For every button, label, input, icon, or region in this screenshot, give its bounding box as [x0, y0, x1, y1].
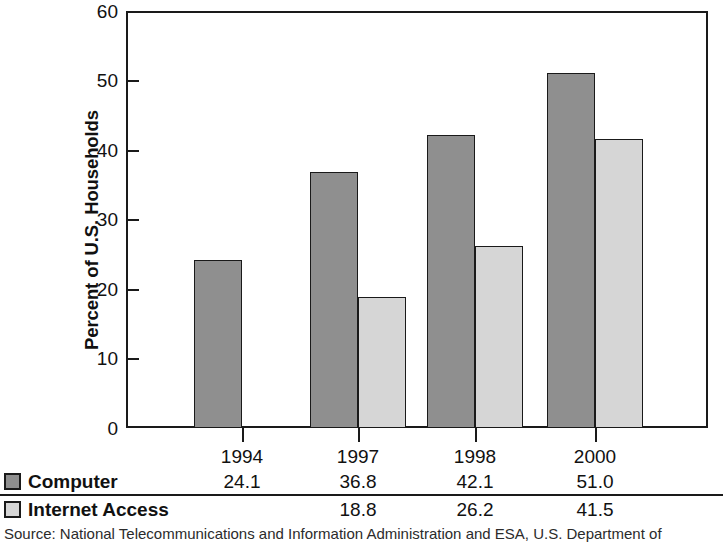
y-tick-mark-40: [126, 150, 139, 152]
bar-internet-access-1998: [475, 246, 523, 428]
value-internet-access-2000: 41.5: [550, 500, 640, 519]
x-tick-label-1994: 1994: [197, 447, 287, 466]
table-row-internet-access: Internet Access 18.8 26.2 41.5: [0, 497, 727, 522]
internet-access-swatch-icon: [4, 501, 21, 518]
x-tick-mark-2000: [595, 428, 597, 442]
y-tick-label-60: 60: [78, 2, 118, 21]
computer-swatch-icon: [4, 473, 21, 490]
y-tick-label-0: 0: [78, 419, 118, 438]
series-label-internet-access: Internet Access: [28, 499, 169, 521]
y-tick-mark-10: [126, 358, 139, 360]
bar-internet-access-2000: [595, 139, 643, 428]
value-computer-2000: 51.0: [550, 472, 640, 491]
value-computer-1994: 24.1: [197, 472, 287, 491]
x-tick-mark-1994: [242, 428, 244, 442]
source-note: Source: National Telecommunications and …: [4, 525, 727, 542]
bar-computer-1997: [310, 172, 358, 428]
x-tick-label-1998: 1998: [430, 447, 520, 466]
x-tick-mark-1997: [358, 428, 360, 442]
value-internet-access-1998: 26.2: [430, 500, 520, 519]
y-tick-label-40: 40: [78, 141, 118, 160]
bar-computer-1994: [194, 260, 242, 428]
bar-computer-2000: [547, 73, 595, 428]
y-tick-mark-50: [126, 80, 139, 82]
bar-computer-1998: [427, 135, 475, 428]
y-tick-label-20: 20: [78, 280, 118, 299]
x-tick-mark-1998: [475, 428, 477, 442]
table-divider-rule: [0, 494, 723, 496]
value-internet-access-1997: 18.8: [313, 500, 403, 519]
x-tick-label-1997: 1997: [313, 447, 403, 466]
bar-internet-access-1997: [358, 297, 406, 428]
series-label-computer: Computer: [28, 471, 118, 493]
x-tick-label-2000: 2000: [550, 447, 640, 466]
value-computer-1997: 36.8: [313, 472, 403, 491]
y-tick-label-10: 10: [78, 349, 118, 368]
y-tick-label-30: 30: [78, 210, 118, 229]
y-tick-mark-30: [126, 219, 139, 221]
y-tick-label-50: 50: [78, 71, 118, 90]
legend-data-table: Computer 24.1 36.8 42.1 51.0 Internet Ac…: [0, 469, 727, 522]
value-computer-1998: 42.1: [430, 472, 520, 491]
table-row-computer: Computer 24.1 36.8 42.1 51.0: [0, 469, 727, 494]
y-tick-mark-20: [126, 289, 139, 291]
